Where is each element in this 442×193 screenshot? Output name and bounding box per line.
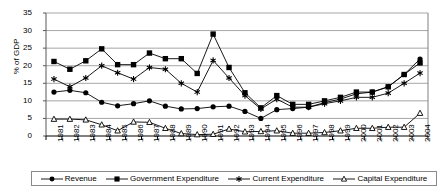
legend-label: Current Expenditure: [252, 174, 324, 183]
marker-filled-square: [51, 59, 56, 64]
marker-filled-square: [370, 89, 375, 94]
legend-item[interactable]: Revenue: [41, 174, 97, 184]
y-tick-label: 20: [16, 62, 32, 70]
legend-item[interactable]: Current Expenditure: [228, 174, 324, 184]
x-tick-label: 1994: [264, 124, 272, 142]
x-tick-label: 1986: [137, 124, 145, 142]
marker-filled-circle: [51, 89, 56, 94]
marker-filled-circle: [115, 103, 120, 108]
marker-filled-circle: [179, 106, 184, 111]
legend-symbol: [333, 174, 355, 184]
x-tick-label: 2000: [360, 124, 368, 142]
marker-filled-circle: [274, 107, 279, 112]
x-tick-label: 1995: [280, 124, 288, 142]
marker-filled-circle: [131, 101, 136, 106]
y-tick-label: 30: [16, 27, 32, 35]
marker-filled-square: [99, 46, 104, 51]
x-tick-label: 1983: [89, 124, 97, 142]
plot-background: [46, 13, 428, 136]
x-tick-label: 1999: [344, 124, 352, 142]
legend-item[interactable]: Government Expenditure: [106, 174, 219, 184]
marker-filled-square: [226, 65, 231, 70]
legend-item[interactable]: Capital Expenditure: [333, 174, 427, 184]
x-tick-label: 1990: [201, 124, 209, 142]
marker-filled-square: [115, 62, 120, 67]
y-tick-label: 35: [16, 9, 32, 17]
legend-label: Capital Expenditure: [357, 174, 427, 183]
marker-filled-circle: [195, 106, 200, 111]
x-tick-label: 2003: [408, 124, 416, 142]
gdp-line-chart: % of GDP 05101520253035 RevenueGovernmen…: [0, 0, 442, 193]
marker-filled-square: [417, 60, 422, 65]
x-tick-label: 1991: [217, 124, 225, 142]
marker-filled-square: [354, 89, 359, 94]
x-tick-label: 2004: [424, 124, 432, 142]
y-tick-label: 25: [16, 44, 32, 52]
x-tick-label: 2001: [376, 124, 384, 142]
y-tick-label: 10: [16, 97, 32, 105]
legend-label: Government Expenditure: [130, 174, 219, 183]
marker-filled-circle: [83, 90, 88, 95]
x-tick-label: 1982: [73, 124, 81, 142]
y-tick-label: 0: [16, 132, 32, 140]
y-tick-label: 15: [16, 79, 32, 87]
marker-filled-circle: [258, 116, 263, 121]
x-tick-label: 1987: [153, 124, 161, 142]
x-tick-label: 1984: [105, 124, 113, 142]
x-tick-label: 1981: [57, 124, 65, 142]
legend-label: Revenue: [65, 174, 97, 183]
x-tick-label: 1989: [185, 124, 193, 142]
marker-filled-square: [67, 67, 72, 72]
marker-filled-circle: [99, 100, 104, 105]
plot-area: [0, 0, 442, 193]
x-tick-label: 1993: [248, 124, 256, 142]
legend-symbol: [41, 174, 63, 184]
marker-filled-circle: [211, 104, 216, 109]
x-tick-label: 1988: [169, 124, 177, 142]
x-tick-label: 2002: [392, 124, 400, 142]
marker-filled-square: [195, 71, 200, 76]
x-tick-label: 1997: [312, 124, 320, 142]
marker-filled-circle: [242, 109, 247, 114]
marker-filled-square: [115, 176, 120, 181]
legend-symbol: [228, 174, 250, 184]
marker-filled-square: [147, 50, 152, 55]
marker-filled-square: [83, 58, 88, 63]
marker-filled-circle: [49, 176, 54, 181]
marker-filled-square: [386, 84, 391, 89]
marker-filled-square: [163, 56, 168, 61]
x-tick-label: 1992: [233, 124, 241, 142]
x-tick-label: 1998: [328, 124, 336, 142]
marker-filled-square: [179, 56, 184, 61]
marker-filled-square: [401, 72, 406, 77]
y-axis-tick-labels: 05101520253035: [12, 0, 32, 193]
legend-symbol: [106, 174, 128, 184]
marker-filled-circle: [147, 98, 152, 103]
x-tick-label: 1996: [296, 124, 304, 142]
x-tick-label: 1985: [121, 124, 129, 142]
chart-legend: RevenueGovernment ExpenditureCurrent Exp…: [31, 171, 437, 186]
marker-filled-circle: [226, 104, 231, 109]
marker-filled-square: [210, 31, 215, 36]
y-tick-label: 5: [16, 114, 32, 122]
marker-filled-square: [131, 62, 136, 67]
marker-filled-circle: [163, 104, 168, 109]
